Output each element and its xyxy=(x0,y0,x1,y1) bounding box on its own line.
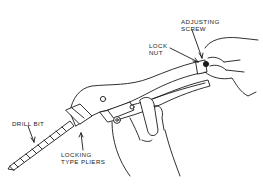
right-hand-illustration xyxy=(205,37,258,96)
lock-nut-label-line1: LOCK xyxy=(149,42,167,49)
drill-bit-label: DRILL BIT xyxy=(12,120,44,127)
adjusting-screw-label-line2: SCREW xyxy=(181,25,220,32)
lock-nut-label-line2: NUT xyxy=(149,49,167,56)
adjusting-screw-label: ADJUSTING SCREW xyxy=(181,18,220,32)
locking-pliers-label-line1: LOCKING xyxy=(61,151,105,158)
locking-pliers-label: LOCKING TYPE PLIERS xyxy=(61,151,105,165)
locking-pliers-label-line2: TYPE PLIERS xyxy=(61,158,105,165)
line-drawing xyxy=(0,0,263,184)
drill-bit-label-text: DRILL BIT xyxy=(12,120,44,127)
pliers-diagram: ADJUSTING SCREW LOCK NUT DRILL BIT LOCKI… xyxy=(0,0,263,184)
adjusting-screw-label-line1: ADJUSTING xyxy=(181,18,220,25)
lock-nut-label: LOCK NUT xyxy=(149,42,167,56)
pliers-illustration xyxy=(66,60,210,126)
